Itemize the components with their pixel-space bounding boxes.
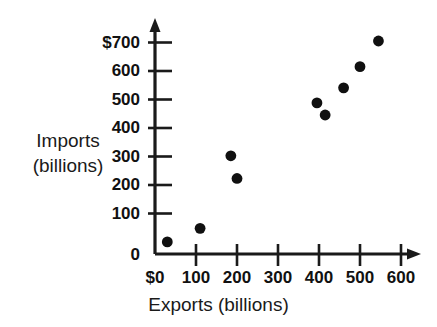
scatter-chart: Imports (billions) Exports (billions) $7… [0, 0, 437, 327]
y-axis-arrow-icon [150, 18, 161, 32]
x-axis-arrow-icon [407, 249, 421, 260]
y-axis-ticks [148, 43, 172, 214]
data-point [355, 61, 366, 72]
data-point [225, 150, 236, 161]
data-point [338, 82, 349, 93]
data-point [232, 173, 243, 184]
axes [150, 18, 422, 260]
data-point [373, 36, 384, 47]
data-point-series [162, 36, 384, 248]
data-point [162, 237, 173, 248]
data-point [312, 98, 323, 109]
data-point [320, 110, 331, 121]
plot-area [0, 0, 437, 327]
data-point [195, 223, 206, 234]
